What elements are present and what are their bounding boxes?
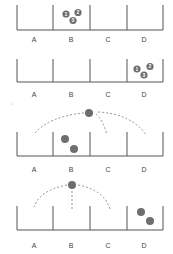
svg-text:3: 3 [143, 72, 146, 78]
ball-1: 1 [133, 65, 140, 72]
ball-3: 3 [140, 71, 147, 78]
bin-walls [17, 5, 163, 30]
moving-ball [68, 181, 76, 189]
bin-label-b: B [69, 91, 74, 98]
bin-label-d: D [141, 91, 146, 98]
panel-2: 1 2 3 A B C D [17, 59, 163, 98]
bin-label-c: C [105, 91, 110, 98]
bin-label-d: D [141, 166, 146, 173]
ball-in-bin [70, 145, 78, 153]
svg-text:1: 1 [65, 11, 68, 17]
bin-label-c: C [105, 242, 110, 249]
bin-label-a: A [32, 91, 37, 98]
bin-label-d: D [141, 242, 146, 249]
panel-3: A B C D [17, 109, 163, 173]
stray-dot [11, 103, 12, 104]
trajectory-to-c [78, 185, 110, 209]
panel-1: 1 2 3 A B C D [17, 5, 163, 43]
trajectory-to-c [96, 114, 107, 135]
trajectory-to-d [98, 112, 146, 135]
bin-label-c: C [105, 36, 110, 43]
svg-text:2: 2 [77, 9, 80, 15]
ball-1: 1 [62, 10, 69, 17]
bins-diagram: 1 2 3 A B C D 1 2 3 A B C D A B C D [0, 0, 173, 254]
trajectory-to-a [34, 185, 67, 207]
bin-label-c: C [105, 166, 110, 173]
ball-in-bin [146, 217, 154, 225]
bin-label-a: A [32, 166, 37, 173]
bin-label-b: B [69, 166, 74, 173]
moving-ball [85, 109, 93, 117]
svg-text:1: 1 [136, 66, 139, 72]
bin-label-b: B [69, 242, 74, 249]
bin-label-a: A [32, 242, 37, 249]
panel-4: A B C D [17, 181, 163, 249]
ball-in-bin [137, 208, 145, 216]
ball-in-bin [61, 135, 69, 143]
ball-2: 2 [146, 63, 153, 70]
bin-walls [17, 59, 163, 82]
svg-text:3: 3 [72, 17, 75, 23]
ball-3: 3 [69, 17, 76, 24]
trajectory-to-a [34, 113, 84, 134]
bin-walls [17, 132, 163, 156]
bin-label-b: B [69, 36, 74, 43]
bin-label-a: A [32, 36, 37, 43]
bin-label-d: D [141, 36, 146, 43]
ball-2: 2 [74, 9, 81, 16]
svg-text:2: 2 [149, 63, 152, 69]
